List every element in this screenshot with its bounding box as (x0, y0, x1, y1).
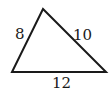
side-label-left: 8 (15, 25, 25, 43)
side-label-right: 10 (73, 26, 92, 44)
triangle-diagram: 8 10 12 (0, 0, 110, 94)
side-label-bottom: 12 (52, 74, 71, 92)
